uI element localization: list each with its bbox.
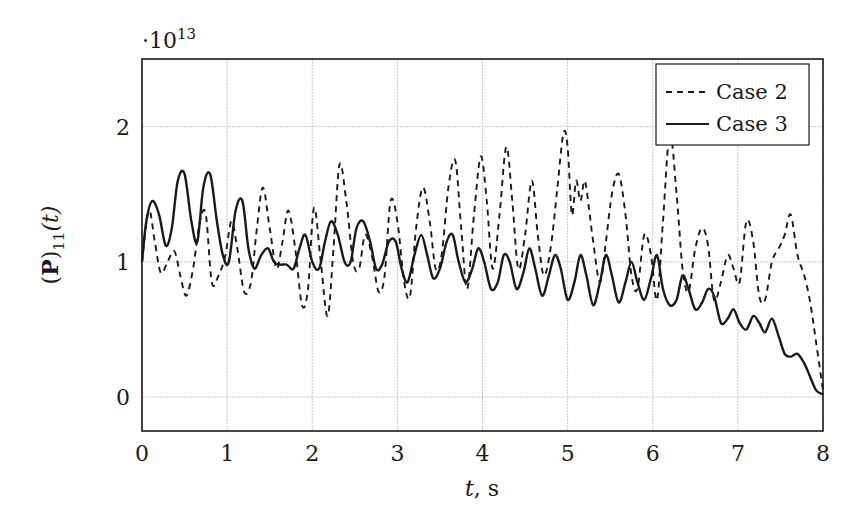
x-tick-label: 3 xyxy=(390,441,404,466)
x-tick-label: 5 xyxy=(561,441,575,466)
y-axis-label: (P)11(t) xyxy=(37,206,68,285)
x-tick-label: 2 xyxy=(305,441,319,466)
y-tick-label: 1 xyxy=(116,250,130,275)
y-tick-label: 2 xyxy=(116,115,130,140)
x-tick-label: 7 xyxy=(731,441,745,466)
x-tick-label: 0 xyxy=(135,441,149,466)
x-tick-label: 4 xyxy=(476,441,490,466)
x-tick-label: 8 xyxy=(816,441,830,466)
legend-label-case-3: Case 3 xyxy=(716,112,788,136)
y-tick-label: 0 xyxy=(116,385,130,410)
x-tick-label: 1 xyxy=(220,441,234,466)
x-tick-labels: 012345678 xyxy=(135,441,830,466)
x-axis-label: t, s xyxy=(465,476,499,501)
y-multiplier-exponent: 13 xyxy=(177,25,196,43)
legend-label-case-2: Case 2 xyxy=(716,80,788,104)
x-tick-label: 6 xyxy=(646,441,660,466)
legend: Case 2 Case 3 xyxy=(656,64,809,145)
line-chart: 012345678 012 ·1013 t, s (P)11(t) Case 2… xyxy=(0,0,865,522)
y-multiplier: ·1013 xyxy=(142,25,196,53)
y-tick-labels: 012 xyxy=(116,115,130,411)
